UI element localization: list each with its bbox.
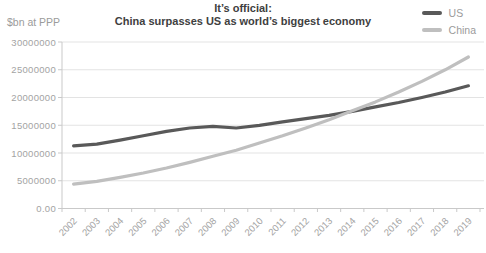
y-tick-label: 5000000 (17, 175, 56, 186)
y-tick-label: 15000000 (11, 120, 56, 131)
y-gridlines (62, 42, 484, 181)
china-line-swatch (422, 28, 442, 32)
y-tick-label: 30000000 (11, 37, 56, 48)
legend-item-china: China (422, 21, 476, 38)
x-tick-label: 2012 (289, 215, 312, 238)
x-tick-label: 2013 (312, 215, 335, 238)
us-line-swatch (422, 11, 442, 15)
x-tick-labels: 2002200320042005200620072008200920102011… (56, 215, 474, 238)
x-tick-label: 2003 (80, 215, 103, 238)
chart-canvas: 0.00500000010000000150000002000000025000… (0, 0, 486, 253)
x-tick-marks (62, 209, 480, 213)
y-tick-label: 10000000 (11, 148, 56, 159)
y-tick-labels: 0.00500000010000000150000002000000025000… (11, 37, 62, 215)
y-tick-label: 20000000 (11, 92, 56, 103)
y-tick-label: 25000000 (11, 64, 56, 75)
line-chart: 0.00500000010000000150000002000000025000… (0, 0, 486, 253)
y-tick-label: 0.00 (36, 203, 56, 214)
chart-title-line2: China surpasses US as world’s biggest ec… (0, 15, 486, 28)
y-axis-unit-label: $bn at PPP (7, 16, 60, 28)
series-china-line (74, 57, 469, 184)
x-tick-label: 2004 (103, 215, 126, 238)
x-tick-label: 2014 (335, 215, 358, 238)
chart-legend: US China (422, 4, 476, 38)
x-tick-label: 2011 (266, 215, 288, 237)
legend-label-us: US (449, 7, 464, 19)
legend-label-china: China (449, 24, 476, 36)
x-tick-label: 2019 (451, 215, 474, 238)
legend-item-us: US (422, 4, 476, 21)
x-tick-label: 2006 (149, 215, 172, 238)
x-tick-label: 2010 (242, 215, 265, 238)
x-tick-label: 2015 (358, 215, 381, 238)
x-tick-label: 2017 (405, 215, 428, 238)
x-tick-label: 2005 (126, 215, 149, 238)
x-tick-label: 2018 (428, 215, 451, 238)
series-us-line (74, 86, 469, 146)
x-tick-label: 2016 (381, 215, 404, 238)
x-tick-label: 2009 (219, 215, 242, 238)
chart-title-line1: It’s official: (0, 2, 486, 15)
x-tick-label: 2007 (172, 215, 195, 238)
x-tick-label: 2008 (196, 215, 219, 238)
chart-title: It’s official: China surpasses US as wor… (0, 2, 486, 28)
x-tick-label: 2002 (56, 215, 79, 238)
